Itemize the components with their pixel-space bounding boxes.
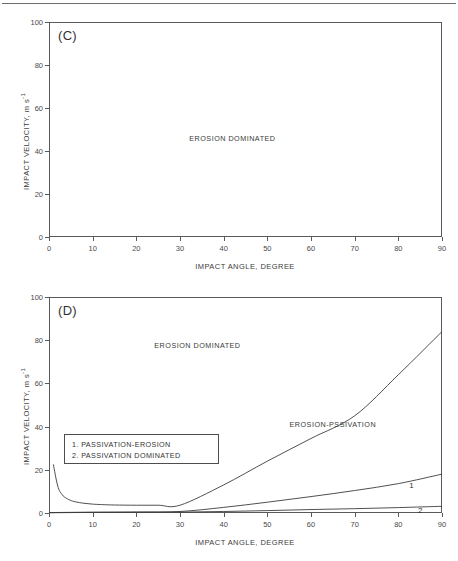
x-tick-label: 10 — [88, 244, 96, 253]
y-tick-label: 0 — [24, 233, 43, 242]
x-axis-title-c: IMPACT ANGLE, DEGREE — [195, 262, 295, 271]
x-tick-mark — [180, 237, 181, 241]
x-tick-label: 30 — [176, 520, 184, 529]
y-tick-mark — [45, 194, 49, 195]
y-tick-label: 100 — [24, 293, 43, 302]
y-tick-mark — [45, 470, 49, 471]
cropped-caption-text — [6, 553, 236, 560]
y-tick-label: 100 — [24, 18, 43, 27]
curve-number-label: 2 — [418, 505, 422, 514]
x-tick-mark — [355, 237, 356, 241]
x-tick-label: 70 — [350, 520, 358, 529]
x-tick-label: 50 — [263, 520, 271, 529]
x-tick-mark — [180, 513, 181, 517]
x-tick-mark — [355, 513, 356, 517]
chart-panel-d: (D) 1. PASSIVATION-EROSION 2. PASSIVATIO… — [0, 275, 458, 561]
x-tick-label: 0 — [47, 244, 51, 253]
x-tick-mark — [49, 513, 50, 517]
x-tick-mark — [398, 237, 399, 241]
region-annotation: EROSION DOMINATED — [189, 134, 275, 143]
x-tick-mark — [224, 513, 225, 517]
x-tick-mark — [224, 237, 225, 241]
x-tick-label: 20 — [132, 520, 140, 529]
x-tick-label: 50 — [263, 244, 271, 253]
x-axis-title-d: IMPACT ANGLE, DEGREE — [195, 538, 295, 547]
x-tick-label: 90 — [438, 244, 446, 253]
x-tick-label: 40 — [219, 520, 227, 529]
x-tick-label: 60 — [307, 520, 315, 529]
x-tick-label: 20 — [132, 244, 140, 253]
x-tick-label: 40 — [219, 244, 227, 253]
y-axis-exponent-d: -1 — [20, 368, 26, 374]
x-tick-mark — [311, 513, 312, 517]
y-tick-label: 20 — [24, 465, 43, 474]
x-tick-label: 70 — [350, 244, 358, 253]
y-axis-exponent-c: -1 — [20, 93, 26, 99]
curve-number-label: 1 — [409, 480, 413, 489]
y-tick-mark — [45, 22, 49, 23]
legend-box: 1. PASSIVATION-EROSION 2. PASSIVATION DO… — [64, 434, 219, 464]
x-tick-label: 90 — [438, 520, 446, 529]
y-axis-title-d: IMPACT VELOCITY, m s-1 — [20, 368, 31, 465]
x-tick-mark — [311, 237, 312, 241]
x-tick-mark — [136, 513, 137, 517]
curve-1 — [53, 332, 442, 507]
y-axis-title-text-d: IMPACT VELOCITY, m s — [22, 374, 31, 465]
region-annotation: EROSION DOMINATED — [154, 340, 240, 349]
x-tick-mark — [267, 237, 268, 241]
y-axis-title-c: IMPACT VELOCITY, m s-1 — [20, 93, 31, 190]
x-tick-mark — [398, 513, 399, 517]
y-tick-label: 20 — [24, 190, 43, 199]
figure-page: (C) EROSION DOMINATED 010203040506070809… — [0, 0, 458, 561]
y-tick-mark — [45, 340, 49, 341]
legend-item-1: 1. PASSIVATION-EROSION — [72, 439, 212, 450]
x-tick-mark — [267, 513, 268, 517]
x-tick-label: 80 — [394, 520, 402, 529]
y-tick-mark — [45, 383, 49, 384]
y-tick-label: 0 — [24, 509, 43, 518]
region-annotation: EROSION-PSSIVATION — [290, 420, 377, 429]
x-tick-label: 60 — [307, 244, 315, 253]
x-tick-mark — [93, 513, 94, 517]
y-axis-title-text-c: IMPACT VELOCITY, m s — [22, 99, 31, 190]
x-tick-label: 0 — [47, 520, 51, 529]
y-tick-label: 80 — [24, 61, 43, 70]
chart-panel-c: (C) EROSION DOMINATED 010203040506070809… — [0, 0, 458, 285]
y-tick-mark — [45, 237, 49, 238]
x-tick-label: 10 — [88, 520, 96, 529]
x-tick-mark — [442, 237, 443, 241]
y-tick-mark — [45, 65, 49, 66]
y-tick-label: 80 — [24, 336, 43, 345]
x-tick-mark — [442, 513, 443, 517]
curve-2 — [49, 474, 442, 512]
plot-curves-d — [0, 275, 458, 561]
x-tick-label: 30 — [176, 244, 184, 253]
x-tick-mark — [93, 237, 94, 241]
y-tick-mark — [45, 151, 49, 152]
y-tick-mark — [45, 108, 49, 109]
x-tick-label: 80 — [394, 244, 402, 253]
x-tick-mark — [49, 237, 50, 241]
x-tick-mark — [136, 237, 137, 241]
y-tick-mark — [45, 297, 49, 298]
y-tick-mark — [45, 427, 49, 428]
y-tick-mark — [45, 513, 49, 514]
legend-item-2: 2. PASSIVATION DOMINATED — [72, 450, 212, 461]
